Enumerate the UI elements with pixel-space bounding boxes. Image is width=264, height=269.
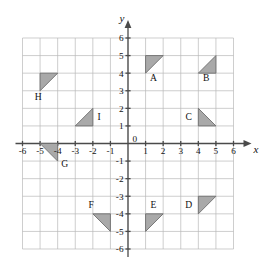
shape-label-g: G xyxy=(61,158,68,169)
triangle-i xyxy=(75,108,93,126)
origin-label: 0 xyxy=(133,134,138,144)
x-axis-label: x xyxy=(253,143,259,155)
coordinate-grid-svg: -6-5-4-3-2-10123456654321-1-2-3-4-5-6 AB… xyxy=(0,0,264,269)
x-tick-label-neg2: -2 xyxy=(89,146,97,156)
y-axis-arrowhead xyxy=(125,20,132,28)
y-tick-label-neg6: -6 xyxy=(116,244,124,254)
x-axis-arrowhead xyxy=(244,140,252,147)
triangle-f xyxy=(93,214,111,232)
triangle-a xyxy=(146,56,164,74)
triangle-d xyxy=(198,196,216,214)
x-tick-label-2: 2 xyxy=(161,146,166,156)
y-tick-label-neg1: -1 xyxy=(116,156,124,166)
x-tick-label-1: 1 xyxy=(143,146,148,156)
shape-label-i: I xyxy=(97,111,100,122)
x-tick-label-neg6: -6 xyxy=(19,146,27,156)
shape-label-c: C xyxy=(185,111,191,122)
y-tick-label-5: 5 xyxy=(119,51,124,61)
triangle-c xyxy=(198,108,216,126)
y-tick-label-6: 6 xyxy=(119,33,124,43)
shape-label-a: A xyxy=(150,72,157,83)
y-tick-label-neg3: -3 xyxy=(116,192,124,202)
x-tick-label-neg5: -5 xyxy=(36,146,44,156)
y-tick-label-neg5: -5 xyxy=(116,227,124,237)
y-axis-label: y xyxy=(119,12,125,24)
x-tick-label-3: 3 xyxy=(178,146,183,156)
shape-label-h: H xyxy=(35,91,42,102)
triangle-b xyxy=(198,56,216,74)
triangle-e xyxy=(146,214,164,232)
x-tick-label-4: 4 xyxy=(196,146,201,156)
y-tick-label-2: 2 xyxy=(119,104,124,114)
y-tick-label-neg4: -4 xyxy=(116,209,124,219)
y-tick-label-1: 1 xyxy=(119,121,124,131)
x-tick-label-neg1: -1 xyxy=(107,146,115,156)
x-tick-label-neg4: -4 xyxy=(54,146,62,156)
shape-label-d: D xyxy=(185,199,192,210)
y-tick-label-neg2: -2 xyxy=(116,174,124,184)
x-tick-label-neg3: -3 xyxy=(71,146,79,156)
x-tick-label-5: 5 xyxy=(214,146,219,156)
coordinate-plane-figure: -6-5-4-3-2-10123456654321-1-2-3-4-5-6 AB… xyxy=(0,0,264,269)
shape-label-e: E xyxy=(151,199,157,210)
axis-names: xy xyxy=(119,12,259,155)
x-tick-label-6: 6 xyxy=(231,146,236,156)
triangle-h xyxy=(40,73,58,91)
shape-label-f: F xyxy=(88,199,93,210)
y-tick-label-3: 3 xyxy=(119,86,124,96)
y-tick-label-4: 4 xyxy=(119,69,124,79)
shape-label-b: B xyxy=(203,72,209,83)
